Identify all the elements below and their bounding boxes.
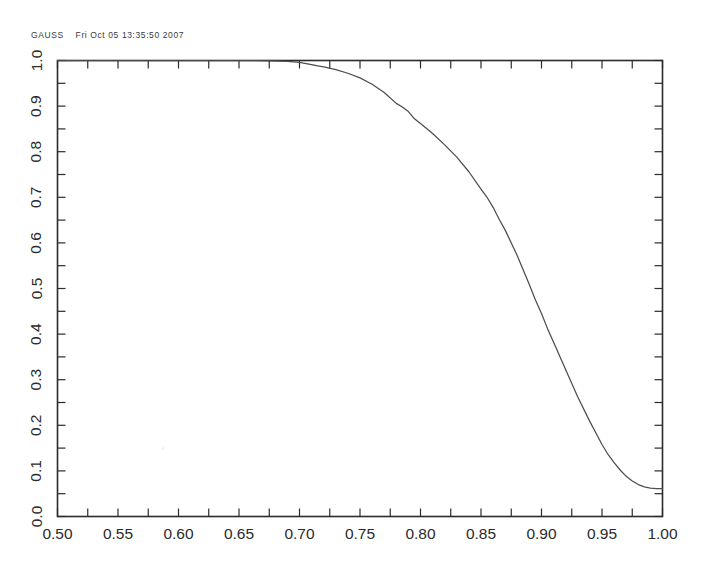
y-axis-tick-label: 0.2 [28,415,45,437]
x-axis-tick-label: 0.55 [103,525,133,542]
x-axis-tick-label: 0.50 [42,525,73,542]
y-axis-tick-label: 1.0 [28,49,45,71]
x-axis-tick-label: 0.65 [224,525,254,542]
x-axis-tick-label: 1.00 [647,525,678,542]
y-axis-tick-label: 0.3 [28,369,45,391]
y-axis-tick-label: 0.5 [28,278,45,300]
y-axis-tick-label: 0.0 [28,505,45,527]
y-axis-tick-label: 0.6 [28,232,45,254]
y-axis-tick-label: 0.4 [28,323,45,345]
data-curve-power [58,61,663,489]
y-axis-tick-label: 0.8 [28,141,45,163]
chart-canvas: 0.500.550.600.650.700.750.800.850.900.95… [0,0,719,570]
x-axis-tick-label: 0.80 [405,525,436,542]
y-axis-tick-label: 0.9 [28,95,45,117]
x-axis-tick-label: 0.90 [526,525,557,542]
x-axis-tick-label: 0.70 [284,525,315,542]
y-axis-tick-label: 0.1 [28,460,45,482]
x-axis-tick-label: 0.60 [163,525,194,542]
x-axis-tick-label: 0.95 [587,525,617,542]
plot-frame [58,61,663,517]
x-axis-tick-label: 0.75 [345,525,375,542]
x-axis-tick-label: 0.85 [466,525,496,542]
y-axis-tick-label: 0.7 [28,187,45,209]
gauss-plot-window: GAUSS Fri Oct 05 13:35:50 2007 0.500.550… [0,0,719,570]
